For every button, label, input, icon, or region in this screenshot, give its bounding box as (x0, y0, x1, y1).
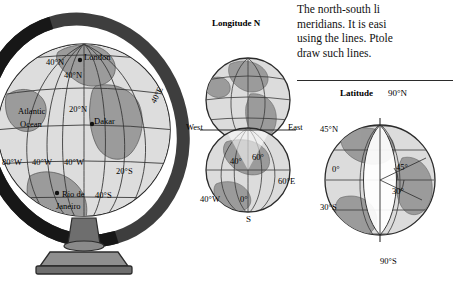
mid-label-60: 60° (252, 152, 264, 162)
right-label-45n: 45°N (320, 124, 338, 134)
globe-label-20s: 20°S (116, 166, 133, 176)
horizontal-rule (297, 80, 453, 81)
city-dot-london (78, 58, 82, 62)
right-label-45: 45° (396, 162, 408, 172)
body-text-line-1: The north-south li (297, 2, 461, 17)
mid-label-40w: 40°W (200, 194, 220, 204)
right-label-0: 0° (332, 164, 340, 174)
page-canvas: The north-south li meridians. It is easi… (0, 0, 461, 282)
right-label-latitude: Latitude (340, 88, 373, 98)
globe-label-40w-a: 40°W (32, 157, 52, 167)
globe-label-rio-2: Janeiro (56, 201, 81, 211)
mid-label-60e: 60°E (278, 176, 295, 186)
globe-label-ocean: Ocean (20, 119, 42, 129)
latitude-figure: Latitude 90°N 45°N 45° 0° 30° 30°S 90°S (318, 88, 461, 282)
globe-label-london: London (84, 52, 110, 62)
globe-label-1: 40°N (64, 70, 82, 80)
globe-label-rio-1: Rio de (62, 189, 84, 199)
mid-label-0: 0° (240, 194, 248, 204)
globe-label-dakar: Dakar (94, 116, 115, 126)
globe-label-40s: 40°S (95, 190, 112, 200)
right-label-90s: 90°S (380, 256, 397, 266)
globe-label-0: 40°N (46, 57, 64, 67)
latitude-illustration (318, 88, 461, 282)
mid-label-west: West (186, 122, 203, 132)
globe-illustration (0, 0, 190, 282)
mid-label-longitude-n: Longitude N (212, 18, 260, 28)
globe-figure: 40°N 40°N London Atlantic Ocean 20°N Dak… (0, 0, 190, 282)
right-label-30s: 30°S (320, 202, 337, 212)
globe-label-80w: 80°W (2, 157, 22, 167)
body-text-line-4: draw such lines. (297, 46, 461, 61)
mid-label-s: S (246, 214, 251, 224)
city-dot-rio (55, 191, 59, 195)
right-label-90n: 90°N (388, 88, 407, 98)
longitude-figure: Longitude N West East 40° 60° 60°E 40°W … (186, 18, 311, 273)
body-text-line-2: meridians. It is easi (297, 17, 461, 32)
mid-label-east: East (288, 122, 303, 132)
globe-label-20n: 20°N (69, 104, 87, 114)
body-text-line-3: using the lines. Ptole (297, 31, 461, 46)
mid-label-40: 40° (230, 156, 242, 166)
globe-label-atlantic: Atlantic (18, 106, 45, 116)
globe-label-40w-b: 40°W (64, 157, 84, 167)
right-label-30: 30° (392, 186, 404, 196)
body-text-block: The north-south li meridians. It is easi… (297, 2, 461, 60)
